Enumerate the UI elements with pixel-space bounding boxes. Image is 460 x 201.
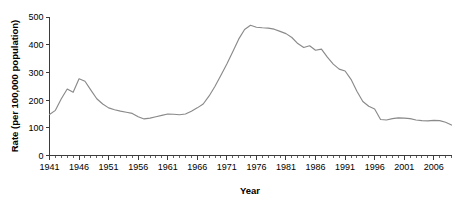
x-tick-label: 1966 — [187, 162, 207, 172]
x-tick-label: 2001 — [394, 162, 414, 172]
x-tick-label: 2006 — [424, 162, 444, 172]
x-tick-label: 1961 — [158, 162, 178, 172]
x-tick-label: 1971 — [217, 162, 237, 172]
x-tick-label: 1976 — [246, 162, 266, 172]
y-tick-label: 400 — [28, 40, 43, 50]
y-tick-label: 0 — [38, 151, 43, 161]
x-tick-label: 1986 — [306, 162, 326, 172]
x-tick-label: 1941 — [39, 162, 59, 172]
x-tick-label: 1991 — [335, 162, 355, 172]
y-axis: 0100200300400500 — [28, 12, 49, 161]
data-line-rate — [50, 25, 452, 125]
y-tick-label: 500 — [28, 12, 43, 22]
x-tick-label: 1956 — [128, 162, 148, 172]
y-tick-label: 300 — [28, 68, 43, 78]
line-chart: 0100200300400500 19411946195119561961196… — [0, 0, 460, 201]
y-tick-label: 200 — [28, 96, 43, 106]
x-tick-label: 1996 — [365, 162, 385, 172]
y-axis-title: Rate (per 100,000 population) — [9, 20, 20, 153]
x-tick-label: 1981 — [276, 162, 296, 172]
chart-container: 0100200300400500 19411946195119561961196… — [0, 0, 460, 201]
x-tick-label: 1946 — [69, 162, 89, 172]
x-axis: 1941194619511956196119661971197619811986… — [39, 156, 451, 172]
data-series-group — [50, 25, 452, 125]
x-axis-title: Year — [240, 185, 260, 196]
x-tick-label: 1951 — [99, 162, 119, 172]
y-tick-label: 100 — [28, 123, 43, 133]
